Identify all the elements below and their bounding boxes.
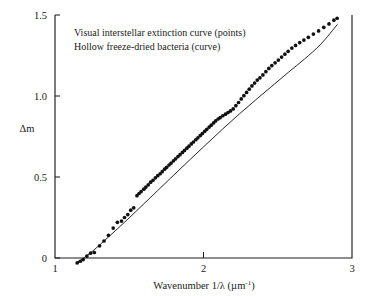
data-point <box>294 44 298 48</box>
data-point <box>335 16 339 20</box>
data-point <box>129 208 133 212</box>
y-tick-label: 0.5 <box>34 172 47 183</box>
data-point <box>286 49 290 53</box>
data-point <box>276 58 280 62</box>
extinction-curve-chart: 123 00.51.01.5 Wavenumber 1/λ (µm-1) Δm … <box>0 0 372 296</box>
data-point <box>312 32 316 36</box>
y-tick-label: 1.5 <box>34 10 47 21</box>
data-point <box>298 41 302 45</box>
y-tick-label: 1.0 <box>34 91 47 102</box>
data-point <box>245 91 249 95</box>
data-point <box>253 81 257 85</box>
data-point <box>120 219 124 223</box>
x-axis-title: Wavenumber 1/λ (µm-1) <box>153 279 255 292</box>
data-point <box>290 46 294 50</box>
annotation-line-1: Visual interstellar extinction curve (po… <box>74 27 246 39</box>
data-point <box>317 29 321 33</box>
data-point <box>270 64 274 68</box>
data-point <box>247 87 251 91</box>
y-axis-title: Δm <box>20 123 35 134</box>
data-point <box>234 104 238 108</box>
data-point <box>231 107 235 111</box>
data-point <box>239 97 243 101</box>
data-point <box>264 70 268 74</box>
data-point <box>258 76 262 80</box>
data-point <box>237 101 241 105</box>
data-point <box>250 84 254 88</box>
data-point <box>132 206 136 210</box>
y-tick-label: 0 <box>42 253 47 264</box>
data-point <box>327 22 331 26</box>
data-point <box>85 254 89 258</box>
data-point <box>98 244 102 248</box>
data-point <box>89 251 93 255</box>
data-point <box>322 25 326 29</box>
data-point <box>107 233 111 237</box>
chart-page: 123 00.51.01.5 Wavenumber 1/λ (µm-1) Δm … <box>0 0 372 296</box>
data-point <box>111 226 115 230</box>
data-point <box>302 38 306 42</box>
data-point <box>267 67 271 71</box>
data-point <box>126 213 130 217</box>
data-point <box>273 61 277 65</box>
data-point <box>306 36 310 40</box>
data-point <box>280 55 284 59</box>
data-point <box>242 94 246 98</box>
data-point <box>93 251 97 255</box>
x-tick-label: 1 <box>52 263 57 274</box>
data-point <box>81 258 85 262</box>
x-tick-label: 2 <box>201 263 206 274</box>
data-point <box>102 239 106 243</box>
data-point <box>123 216 127 220</box>
annotation-line-2: Hollow freeze-dried bacteria (curve) <box>74 41 220 53</box>
x-tick-label: 3 <box>349 263 354 274</box>
data-point <box>332 18 336 22</box>
data-point <box>261 73 265 77</box>
data-point <box>116 221 120 225</box>
data-point <box>283 52 287 56</box>
